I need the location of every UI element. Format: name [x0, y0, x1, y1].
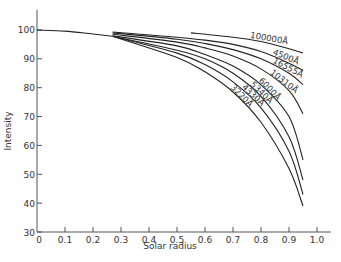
x-axis-label: Solar radius: [143, 241, 197, 251]
x-tick-label: 0: [36, 235, 42, 245]
y-axis-label: Intensity: [3, 111, 13, 151]
x-tick-label: 0.2: [86, 235, 100, 245]
curve-common-segment: [37, 30, 113, 36]
y-tick-label: 30: [24, 228, 36, 238]
y-tick-label: 40: [24, 199, 36, 209]
y-tick-label: 80: [24, 83, 36, 93]
curves: [37, 30, 303, 206]
x-tick-label: 1.0: [310, 235, 325, 245]
y-tick-label: 90: [24, 54, 36, 64]
limb-darkening-chart: 3040506070809010000.10.20.30.40.50.60.70…: [0, 0, 341, 262]
y-tick-label: 100: [18, 25, 35, 35]
x-tick-label: 0.8: [254, 235, 269, 245]
x-tick-label: 0.1: [58, 235, 72, 245]
x-tick-label: 0.7: [226, 235, 240, 245]
y-tick-label: 70: [24, 112, 36, 122]
x-tick-label: 0.6: [198, 235, 213, 245]
y-tick-label: 60: [24, 141, 36, 151]
x-tick-label: 0.9: [282, 235, 297, 245]
y-tick-label: 50: [24, 170, 36, 180]
x-tick-label: 0.3: [114, 235, 128, 245]
